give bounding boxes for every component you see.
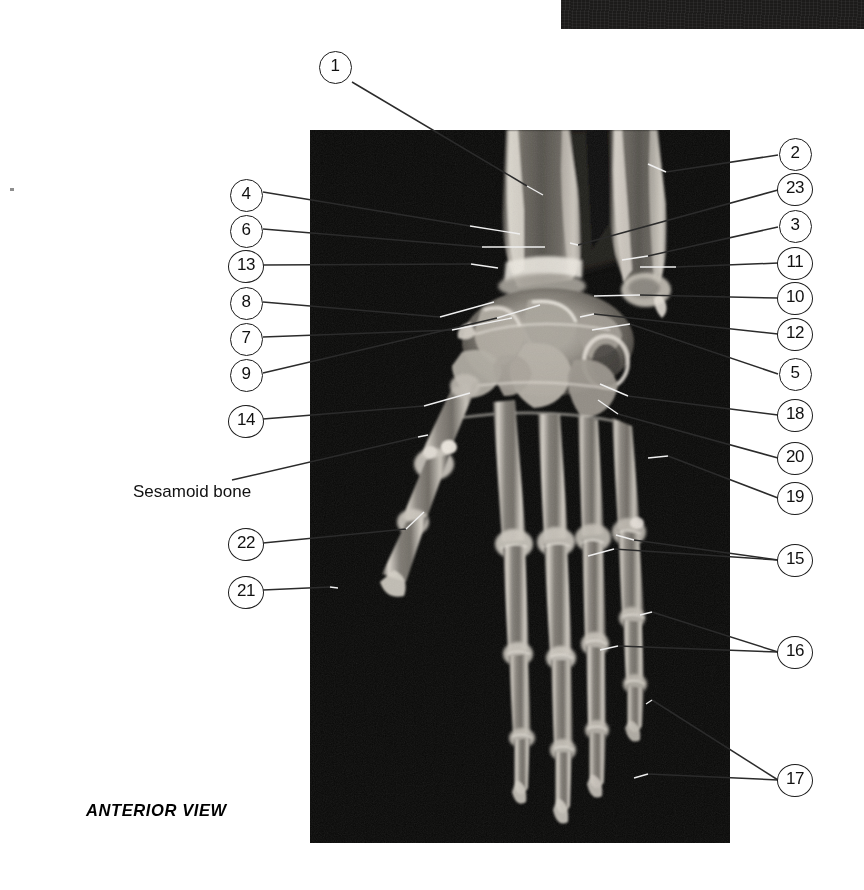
label-sesamoid: Sesamoid bone: [133, 482, 251, 502]
callout-16[interactable]: 16: [777, 636, 813, 669]
top-banner-strip: [561, 0, 864, 29]
callout-17[interactable]: 17: [777, 764, 813, 797]
callout-20[interactable]: 20: [777, 442, 813, 475]
callout-22[interactable]: 22: [228, 528, 264, 561]
anatomy-plate: 1461387914222122331110125182019151617Ses…: [0, 0, 864, 890]
callout-23[interactable]: 23: [777, 173, 813, 206]
view-caption: ANTERIOR VIEW: [86, 801, 227, 820]
callout-19[interactable]: 19: [777, 482, 813, 515]
callout-7[interactable]: 7: [230, 323, 263, 356]
callout-9[interactable]: 9: [230, 359, 263, 392]
callout-18[interactable]: 18: [777, 399, 813, 432]
callout-6[interactable]: 6: [230, 215, 263, 248]
page-speck: [10, 188, 14, 191]
callout-15[interactable]: 15: [777, 544, 813, 577]
callout-14[interactable]: 14: [228, 405, 264, 438]
callout-12[interactable]: 12: [777, 318, 813, 351]
callout-21[interactable]: 21: [228, 576, 264, 609]
callout-2[interactable]: 2: [779, 138, 812, 171]
callout-5[interactable]: 5: [779, 358, 812, 391]
hand-radiograph-image: [310, 130, 730, 843]
callout-13[interactable]: 13: [228, 250, 264, 283]
callout-3[interactable]: 3: [779, 210, 812, 243]
hand-radiograph-panel: [310, 130, 730, 843]
callout-10[interactable]: 10: [777, 282, 813, 315]
callout-11[interactable]: 11: [777, 247, 813, 280]
callout-8[interactable]: 8: [230, 287, 263, 320]
callout-4[interactable]: 4: [230, 179, 263, 212]
banner-grain-texture: [561, 0, 864, 29]
callout-1[interactable]: 1: [319, 51, 352, 84]
